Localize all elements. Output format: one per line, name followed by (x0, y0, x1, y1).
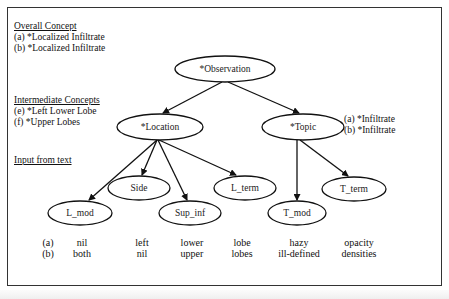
node-label-side: Side (131, 183, 148, 193)
value-l-mod-a: nil (62, 237, 102, 248)
value-l-term-a: lobe (222, 237, 262, 248)
value-side-a: left (122, 237, 162, 248)
edge-topic-tterm (300, 140, 348, 176)
clipped-caption-strip (0, 290, 449, 299)
edge-observation-location (163, 82, 222, 113)
node-label-observation: *Observation (199, 64, 250, 74)
value-t-term-b: densities (334, 248, 384, 259)
value-sup-inf-b: upper (170, 248, 214, 259)
value-l-mod-b: both (62, 248, 102, 259)
node-label-t-mod: T_mod (283, 208, 311, 218)
node-label-location: *Location (141, 122, 180, 132)
row-label-b: (b) (38, 248, 58, 259)
node-label-t-term: T_term (340, 184, 369, 194)
value-side-b: nil (122, 248, 162, 259)
value-sup-inf-a: lower (170, 237, 214, 248)
value-t-term-a: opacity (334, 237, 384, 248)
row-label-a: (a) (38, 237, 58, 248)
node-label-l-mod: L_mod (66, 208, 94, 218)
edge-observation-topic (228, 82, 299, 113)
node-label-l-term: L_term (231, 183, 260, 193)
edge-location-side (142, 140, 157, 175)
value-t-mod-b: ill-defined (272, 248, 326, 259)
node-label-topic: *Topic (290, 122, 316, 132)
edge-location-lterm (159, 140, 236, 175)
value-l-term-b: lobes (222, 248, 262, 259)
node-label-sup-inf: Sup_inf (175, 208, 206, 218)
value-t-mod-a: hazy (272, 237, 326, 248)
